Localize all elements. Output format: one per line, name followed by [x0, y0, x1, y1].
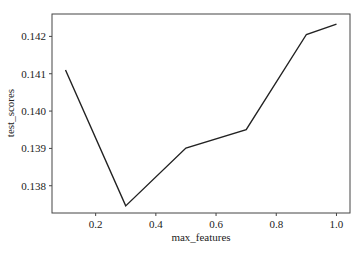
x-tick-label: 0.4	[149, 218, 163, 230]
y-tick-label: 0.140	[21, 105, 46, 117]
y-tick-label: 0.142	[21, 30, 46, 42]
y-tick-label: 0.138	[21, 180, 46, 192]
y-tick-label: 0.139	[21, 142, 46, 154]
x-tick-label: 0.6	[209, 218, 223, 230]
plot-frame	[52, 14, 350, 213]
line-chart: 0.1380.1390.1400.1410.142 0.20.40.60.81.…	[0, 0, 363, 256]
y-axis-ticks: 0.1380.1390.1400.1410.142	[21, 30, 52, 191]
x-tick-label: 1.0	[330, 218, 344, 230]
y-axis-label: test_scores	[4, 89, 16, 137]
x-axis-ticks: 0.20.40.60.81.0	[89, 213, 344, 230]
test-scores-line	[66, 24, 337, 206]
x-tick-label: 0.8	[269, 218, 283, 230]
x-tick-label: 0.2	[89, 218, 103, 230]
y-tick-label: 0.141	[21, 68, 46, 80]
x-axis-label: max_features	[171, 231, 230, 243]
